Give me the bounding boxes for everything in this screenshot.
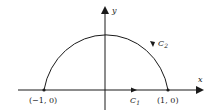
- curve-c2-semicircle: [44, 35, 168, 90]
- point-right-endpoint: [166, 88, 169, 91]
- c2-direction-arrow-icon: [150, 41, 155, 47]
- c1-label: C1: [130, 96, 140, 106]
- right-endpoint-label: (1, 0): [157, 96, 179, 105]
- point-left-endpoint: [42, 88, 45, 91]
- diagram-canvas: x y C2 C1 (−1, 0) (1, 0): [0, 0, 214, 112]
- x-axis-arrow-icon: [196, 86, 204, 94]
- left-endpoint-label: (−1, 0): [29, 96, 57, 105]
- c1-direction-arrow-icon: [131, 88, 137, 93]
- c2-label: C2: [158, 39, 168, 49]
- y-axis-label: y: [111, 6, 117, 15]
- x-axis-label: x: [198, 75, 203, 84]
- y-axis-arrow-icon: [101, 6, 109, 14]
